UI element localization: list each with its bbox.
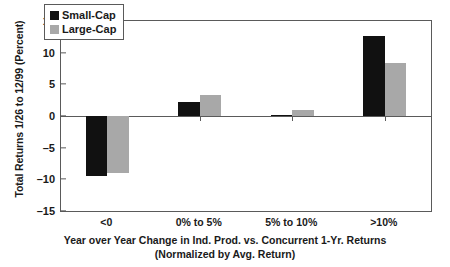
- bar-large-cap: [200, 95, 222, 116]
- bar-small-cap: [363, 36, 385, 116]
- chart-legend: Small-Cap Large-Cap: [44, 4, 124, 40]
- bar-small-cap: [178, 102, 200, 116]
- legend-label-small-cap: Small-Cap: [62, 10, 116, 21]
- x-axis-title-line2: (Normalized by Avg. Return): [0, 248, 450, 260]
- y-axis-tick-label: 5: [49, 79, 61, 90]
- y-axis-tick-label: 10: [43, 47, 61, 58]
- legend-item-small-cap: Small-Cap: [50, 8, 116, 22]
- bar-small-cap: [271, 115, 293, 116]
- x-axis-category-label: 5% to 10%: [265, 216, 317, 228]
- black-square-swatch-icon: [50, 11, 59, 20]
- y-axis-tick-label: –10: [37, 174, 61, 185]
- x-axis-tick-mark: [385, 116, 386, 121]
- legend-label-large-cap: Large-Cap: [62, 24, 116, 35]
- y-axis-tick-mark: [61, 115, 66, 116]
- x-axis-title-line1: Year over Year Change in Ind. Prod. vs. …: [0, 234, 450, 246]
- y-axis-tick-mark: [61, 147, 66, 148]
- y-axis-tick-label: –5: [43, 142, 61, 153]
- x-axis-tick-mark: [200, 116, 201, 121]
- bar-large-cap: [292, 110, 314, 116]
- legend-item-large-cap: Large-Cap: [50, 22, 116, 36]
- y-axis-tick-label: –15: [37, 206, 61, 217]
- y-axis-tick-label: 0: [49, 111, 61, 122]
- bar-large-cap: [107, 116, 129, 173]
- plot-area: 151050–5–10–15: [60, 20, 432, 212]
- y-axis-title: Total Returns 1/26 to 12/99 (Percent): [13, 4, 25, 214]
- y-axis-tick-mark: [61, 210, 66, 211]
- bar-large-cap: [385, 63, 407, 116]
- x-axis-tick-mark: [292, 116, 293, 121]
- bar-chart-figure: Total Returns 1/26 to 12/99 (Percent) 15…: [0, 0, 450, 267]
- y-axis-tick-mark: [61, 84, 66, 85]
- bar-small-cap: [86, 116, 108, 176]
- x-axis-category-label: 0% to 5%: [176, 216, 222, 228]
- y-axis-tick-mark: [61, 52, 66, 53]
- x-axis-category-label: >10%: [370, 216, 397, 228]
- y-axis-tick-mark: [61, 179, 66, 180]
- gray-square-swatch-icon: [50, 25, 59, 34]
- x-axis-category-label: <0: [100, 216, 112, 228]
